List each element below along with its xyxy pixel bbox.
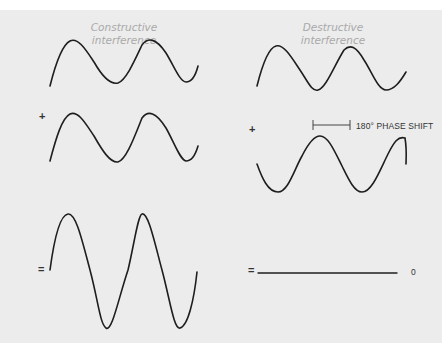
phase-shift-bracket	[313, 120, 350, 130]
constructive-wave-2	[50, 113, 198, 162]
waves-canvas	[0, 0, 442, 351]
constructive-resultant-wave	[50, 214, 197, 328]
destructive-wave-1	[257, 46, 406, 90]
constructive-wave-1	[50, 40, 198, 86]
destructive-wave-2-phase-shifted	[257, 136, 406, 192]
